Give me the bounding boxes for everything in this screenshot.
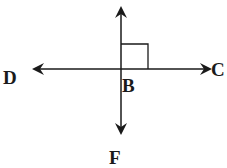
diagram-canvas: D C B F xyxy=(0,0,227,168)
label-f: F xyxy=(109,147,121,168)
label-d: D xyxy=(3,67,17,88)
right-angle-marker-icon xyxy=(121,44,148,69)
label-c: C xyxy=(211,59,225,80)
perpendicular-lines-diagram: D C B F xyxy=(0,0,227,168)
label-b: B xyxy=(122,75,135,96)
